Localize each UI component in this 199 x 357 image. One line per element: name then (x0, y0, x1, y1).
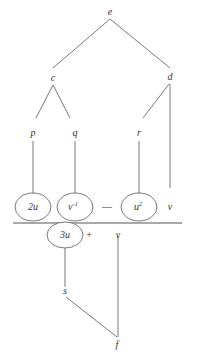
edge-d-r (143, 84, 169, 118)
edge-c-p (36, 85, 53, 118)
node-c: c (51, 72, 56, 83)
node-f: f (116, 339, 120, 350)
edge-e-d (110, 19, 170, 68)
derivation-diagram: e c d p q r v v s f 2u v-1 u2 — 3u + (0, 0, 199, 357)
term-2u: 2u (28, 201, 38, 212)
node-d: d (168, 71, 174, 82)
node-v-bottom: v (116, 229, 121, 240)
term-vinv-exp: -1 (73, 200, 78, 207)
term-3u: 3u (59, 229, 70, 240)
edge-e-c (53, 19, 110, 68)
operator-minus: — (101, 201, 113, 212)
node-e: e (108, 6, 113, 17)
term-u2-oval (121, 193, 157, 221)
term-vinv-oval (57, 193, 93, 221)
operator-plus: + (86, 229, 92, 240)
node-s: s (63, 285, 67, 296)
edge-s-f (66, 297, 117, 337)
node-r: r (137, 127, 141, 138)
node-p: p (30, 127, 36, 138)
node-v-top: v (168, 201, 173, 212)
edge-c-q (53, 85, 70, 118)
node-q: q (73, 127, 78, 138)
